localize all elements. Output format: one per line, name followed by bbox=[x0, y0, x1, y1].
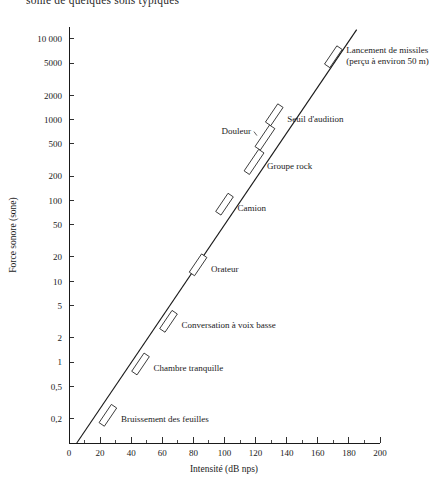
y-tick-label: 0,5 bbox=[51, 382, 63, 392]
annotation-label: Orateur bbox=[211, 264, 238, 274]
annotation-marker bbox=[99, 404, 117, 426]
x-tick-label: 200 bbox=[373, 448, 387, 458]
x-tick-label: 60 bbox=[158, 448, 168, 458]
x-axis-title: Intensité (dB nps) bbox=[190, 464, 258, 475]
y-tick-label-group: 10 0005000200010005002001005020105210,50… bbox=[37, 34, 62, 424]
x-tick-label: 20 bbox=[96, 448, 106, 458]
annotation-label: Chambre tranquille bbox=[154, 363, 224, 373]
annotation-label: Camion bbox=[238, 203, 267, 213]
x-tick-label: 140 bbox=[280, 448, 294, 458]
y-tick-label: 5 bbox=[58, 301, 63, 311]
y-tick-label: 50 bbox=[53, 220, 63, 230]
y-tick-label: 200 bbox=[49, 171, 63, 181]
y-axis-title: Force sonore (sone) bbox=[8, 197, 19, 272]
annotation-label: Groupe rock bbox=[267, 161, 313, 171]
annotation-marker bbox=[255, 125, 275, 150]
annotation-label-group: Lancement de missiles(perçu à environ 50… bbox=[121, 45, 429, 425]
y-tick-label: 1 bbox=[58, 357, 63, 367]
x-tick-label: 120 bbox=[249, 448, 263, 458]
top-caption-text: sonie de quelques sons typiques bbox=[26, 0, 286, 8]
y-tick-label: 10 000 bbox=[37, 34, 62, 44]
annotation-leader-group bbox=[254, 132, 257, 136]
y-tick-label: 10 bbox=[53, 277, 63, 287]
annotation-marker bbox=[216, 193, 234, 215]
y-tick-label: 5000 bbox=[44, 58, 63, 68]
x-tick-label: 100 bbox=[218, 448, 232, 458]
data-line-series bbox=[77, 30, 357, 443]
y-tick-label: 20 bbox=[53, 252, 63, 262]
x-tick-label: 180 bbox=[342, 448, 356, 458]
annotation-marker bbox=[189, 254, 207, 276]
annotation-label-sub: (perçu à environ 50 m) bbox=[346, 56, 428, 66]
y-tick-label: 0,2 bbox=[51, 414, 62, 424]
y-tick-label: 2 bbox=[58, 333, 63, 343]
annotation-label: Seuil d'audition bbox=[287, 114, 344, 124]
x-tick-label: 40 bbox=[127, 448, 137, 458]
annotation-label: Conversation à voix basse bbox=[182, 320, 276, 330]
annotation-label: Douleur bbox=[221, 126, 251, 136]
x-tick-label: 160 bbox=[311, 448, 325, 458]
chart-canvas: 10 0005000200010005002001005020105210,50… bbox=[0, 0, 430, 483]
y-tick-group bbox=[69, 39, 74, 419]
figure-sonie-chart: sonie de quelques sons typiques 10 00050… bbox=[0, 0, 430, 483]
annotation-leader bbox=[254, 132, 257, 136]
annotation-marker bbox=[265, 104, 283, 126]
y-tick-label: 1000 bbox=[44, 115, 63, 125]
annotation-marker bbox=[160, 310, 178, 332]
x-tick-label: 0 bbox=[67, 448, 72, 458]
x-tick-label-group: 020406080100120140160180200 bbox=[67, 448, 388, 458]
y-tick-label: 500 bbox=[49, 139, 63, 149]
x-tick-label: 80 bbox=[189, 448, 199, 458]
x-tick-group bbox=[69, 437, 380, 443]
annotation-marker bbox=[132, 353, 150, 375]
annotation-label: Lancement de missiles bbox=[346, 45, 428, 55]
annotation-label: Bruissement des feuilles bbox=[121, 414, 209, 424]
y-tick-label: 2000 bbox=[44, 91, 63, 101]
y-tick-label: 100 bbox=[49, 196, 63, 206]
